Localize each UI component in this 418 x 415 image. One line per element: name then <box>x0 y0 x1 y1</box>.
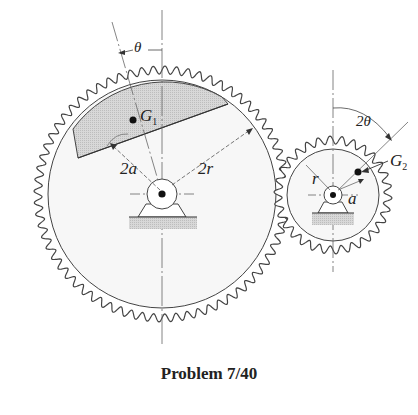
g1-point <box>130 117 137 124</box>
g2-sub: 2 <box>402 161 407 172</box>
two-theta-label: 2θ <box>356 114 371 129</box>
g1-label: G1 <box>140 107 157 127</box>
two-r-label: 2r <box>198 160 213 177</box>
g2-point <box>355 169 362 176</box>
g2-label: G2 <box>390 152 407 172</box>
two-a-label: 2a <box>120 160 137 177</box>
g1-main: G <box>140 106 152 125</box>
g2-main: G <box>390 151 402 170</box>
g1-sub: 1 <box>152 116 157 127</box>
r-label: r <box>312 170 319 187</box>
theta-label: θ <box>134 40 141 55</box>
a-label: a <box>348 190 357 207</box>
figure-caption: Problem 7/40 <box>0 364 418 384</box>
